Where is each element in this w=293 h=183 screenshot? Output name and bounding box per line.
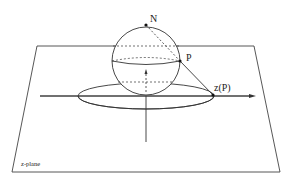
sphere-point-p xyxy=(178,59,181,62)
north-pole-point xyxy=(144,23,147,26)
point-p-label: P xyxy=(186,52,192,63)
projection-point-zp xyxy=(211,93,214,96)
z-plane-label: z-plane xyxy=(21,160,40,167)
projection-line xyxy=(180,61,213,95)
projection-label: z(P) xyxy=(214,82,231,94)
riemann-sphere xyxy=(112,27,180,95)
north-pole-label: N xyxy=(150,13,157,24)
stereographic-diagram: N P z(P) z-plane xyxy=(0,0,293,183)
diagram-canvas: N P z(P) z-plane xyxy=(0,0,293,183)
